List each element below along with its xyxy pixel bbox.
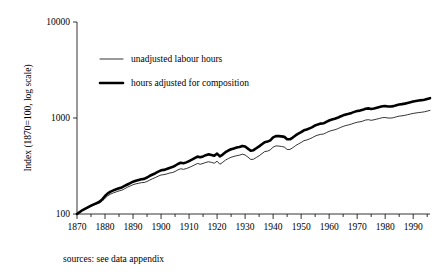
legend-label-1: hours adjusted for composition (131, 78, 249, 88)
x-tick-label: 1900 (152, 222, 171, 232)
legend-label-0: unadjusted labour hours (131, 54, 223, 64)
line-chart: 100100010000 187018801890190019101920193… (0, 0, 443, 279)
x-tick-label: 1910 (180, 222, 199, 232)
chart-caption: sources: see data appendix (63, 254, 164, 264)
x-tick-label: 1920 (208, 222, 227, 232)
x-axis: 1870188018901900191019201930194019501960… (68, 214, 431, 232)
chart-figure: 100100010000 187018801890190019101920193… (0, 0, 443, 279)
x-tick-label: 1970 (348, 222, 367, 232)
y-axis: 100100010000 (46, 17, 77, 219)
y-axis-title: Index (1870=100, log scale) (23, 64, 34, 171)
x-tick-label: 1870 (68, 222, 87, 232)
series-line-0 (77, 110, 430, 214)
series-line-1 (77, 98, 430, 214)
x-tick-label: 1940 (264, 222, 283, 232)
x-tick-label: 1890 (124, 222, 143, 232)
y-tick-label: 1000 (51, 113, 70, 123)
chart-legend: unadjusted labour hourshours adjusted fo… (100, 54, 249, 88)
y-tick-label: 100 (56, 209, 71, 219)
x-tick-label: 1880 (96, 222, 115, 232)
y-tick-label: 10000 (46, 17, 70, 27)
x-tick-label: 1990 (404, 222, 423, 232)
x-tick-label: 1960 (320, 222, 339, 232)
x-tick-label: 1950 (292, 222, 311, 232)
series-lines (77, 98, 430, 214)
x-tick-label: 1980 (376, 222, 395, 232)
x-tick-label: 1930 (236, 222, 255, 232)
